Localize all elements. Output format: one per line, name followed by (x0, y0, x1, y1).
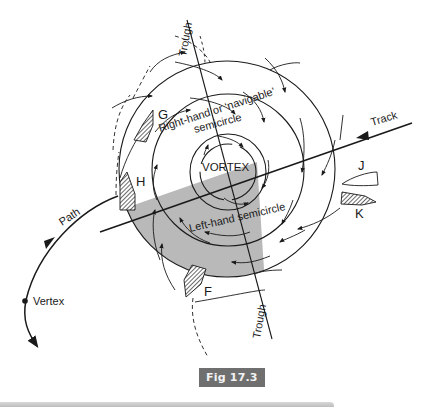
trough-label-top: Trough (176, 21, 194, 57)
vessel-k-label: K (355, 206, 364, 221)
vessel-j: J (342, 158, 378, 186)
left-hand-quadrant-shading (85, 162, 268, 330)
path-label: Path (57, 205, 83, 227)
vessel-f-label: F (204, 284, 212, 299)
trough-label-bottom: Trough (250, 303, 268, 339)
tropical-revolving-storm-diagram: G H F J K Trough Trough Track Path Verte… (0, 0, 430, 407)
vessel-k: K (341, 192, 376, 221)
vertex-dot (22, 298, 28, 304)
path-arrow-icon (44, 237, 55, 249)
vessel-h-label: H (136, 174, 145, 189)
bottom-divider (0, 402, 334, 407)
vertex-label: Vertex (33, 295, 65, 307)
vessel-j-label: J (358, 158, 365, 173)
track-label: Track (369, 108, 399, 128)
vortex-label: VORTEX (202, 161, 249, 173)
figure-caption: Fig 17.3 (199, 368, 265, 387)
track-arrow-icon (356, 131, 369, 140)
